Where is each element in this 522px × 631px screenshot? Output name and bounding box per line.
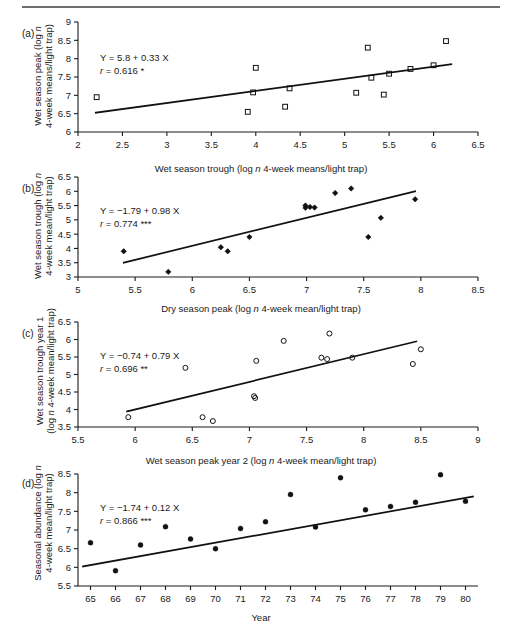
svg-text:72: 72 (260, 593, 271, 604)
svg-text:4.5: 4.5 (294, 139, 307, 150)
svg-text:4: 4 (66, 243, 71, 254)
data-points (126, 331, 424, 424)
svg-text:9: 9 (66, 16, 71, 27)
data-point (381, 92, 386, 97)
svg-text:4.5: 4.5 (58, 229, 71, 240)
data-point (113, 568, 118, 573)
panel-c-plot: 3.544.555.566.55.566.577.588.59 (78, 322, 508, 455)
data-point (94, 95, 99, 100)
svg-text:8.5: 8.5 (414, 434, 427, 445)
svg-text:6: 6 (66, 186, 71, 197)
svg-text:8: 8 (66, 487, 71, 498)
data-point (348, 186, 353, 191)
svg-text:6: 6 (66, 126, 71, 137)
data-point (438, 472, 443, 477)
y-axis-ticks: 66.577.588.59 (58, 16, 78, 137)
data-point (183, 365, 188, 370)
data-point (210, 419, 215, 424)
panel-d-plot: 5.566.577.588.56566676869707172737475767… (78, 474, 508, 614)
svg-text:6.5: 6.5 (58, 108, 71, 119)
svg-text:69: 69 (185, 593, 196, 604)
svg-text:3.5: 3.5 (58, 257, 71, 268)
svg-text:7: 7 (66, 90, 71, 101)
svg-text:6.5: 6.5 (186, 434, 199, 445)
regression-equation: Y = −0.74 + 0.79 X (100, 350, 179, 363)
regression-equation: Y = −1.79 + 0.98 X (100, 205, 179, 218)
regression-equation: Y = −1.74 + 0.12 X (100, 502, 179, 515)
svg-text:5: 5 (66, 369, 71, 380)
svg-text:6.5: 6.5 (58, 171, 71, 182)
data-point (413, 500, 418, 505)
x-axis-ticks: 65666768697071727374757677787980 (85, 586, 471, 604)
svg-text:5.5: 5.5 (71, 434, 84, 445)
svg-text:7.5: 7.5 (300, 434, 313, 445)
svg-text:6: 6 (190, 284, 195, 295)
svg-text:6.5: 6.5 (58, 316, 71, 327)
data-point (366, 234, 371, 239)
panel-c-x-axis-label: Wet season peak year 2 (log n 4-week mea… (0, 455, 522, 466)
x-axis-ticks: 55.566.577.588.5 (75, 277, 484, 295)
panel-d-equation: Y = −1.74 + 0.12 Xr = 0.866 *** (100, 502, 179, 527)
svg-text:2.5: 2.5 (116, 139, 129, 150)
svg-text:5.5: 5.5 (58, 200, 71, 211)
data-point (225, 249, 230, 254)
svg-text:3: 3 (164, 139, 169, 150)
svg-text:77: 77 (385, 593, 396, 604)
data-point (166, 269, 171, 274)
data-point (247, 234, 252, 239)
svg-text:9: 9 (475, 434, 480, 445)
data-point (88, 540, 93, 545)
svg-text:5: 5 (75, 284, 80, 295)
correlation-value: r = 0.616 * (100, 65, 169, 78)
svg-text:6.5: 6.5 (58, 543, 71, 554)
svg-text:66: 66 (110, 593, 121, 604)
svg-text:8: 8 (361, 434, 366, 445)
svg-text:67: 67 (135, 593, 146, 604)
correlation-value: r = 0.866 *** (100, 515, 179, 528)
panel-b-svg: 33.544.555.566.555.566.577.588.5 (78, 177, 508, 305)
data-point (188, 536, 193, 541)
panel-a-x-axis-label: Wet season trough (log n 4-week means/li… (0, 163, 522, 174)
data-point (365, 45, 370, 50)
svg-text:74: 74 (310, 593, 321, 604)
y-axis-ticks: 5.566.577.588.5 (58, 468, 78, 591)
panel-c-equation: Y = −0.74 + 0.79 Xr = 0.696 ** (100, 350, 179, 375)
panel-b-y-axis-label: Wet season trough (log n4-week mean/ligh… (32, 164, 54, 289)
data-point (313, 525, 318, 530)
y-axis-ticks: 33.544.555.566.5 (58, 171, 78, 282)
svg-text:65: 65 (85, 593, 96, 604)
panel-d-svg: 5.566.577.588.56566676869707172737475767… (78, 474, 508, 614)
data-point (354, 90, 359, 95)
svg-text:80: 80 (460, 593, 471, 604)
svg-text:7.5: 7.5 (357, 284, 370, 295)
svg-text:3.5: 3.5 (58, 421, 71, 432)
svg-text:68: 68 (160, 593, 171, 604)
svg-text:3.5: 3.5 (205, 139, 218, 150)
svg-text:5.5: 5.5 (383, 139, 396, 150)
svg-text:3: 3 (66, 271, 71, 282)
svg-text:8: 8 (418, 284, 423, 295)
svg-text:7: 7 (304, 284, 309, 295)
svg-text:78: 78 (410, 593, 421, 604)
data-point (412, 197, 417, 202)
data-point (325, 357, 330, 362)
data-points (121, 186, 418, 275)
panel-a-equation: Y = 5.8 + 0.33 Xr = 0.616 * (100, 52, 169, 77)
svg-text:6: 6 (66, 334, 71, 345)
panel-a-plot: 66.577.588.5922.533.544.555.566.5 (78, 22, 508, 160)
data-point (263, 519, 268, 524)
data-point (200, 415, 205, 420)
svg-text:5.5: 5.5 (129, 284, 142, 295)
data-point (363, 507, 368, 512)
data-point (378, 215, 383, 220)
svg-text:71: 71 (235, 593, 246, 604)
panel-c-letter: (c) (22, 328, 34, 339)
data-point (388, 504, 393, 509)
data-point (338, 475, 343, 480)
svg-text:6.5: 6.5 (243, 284, 256, 295)
axes (78, 22, 478, 132)
panel-b-plot: 33.544.555.566.555.566.577.588.5 (78, 177, 508, 305)
svg-text:4: 4 (253, 139, 258, 150)
data-point (126, 415, 131, 420)
data-point (463, 499, 468, 504)
